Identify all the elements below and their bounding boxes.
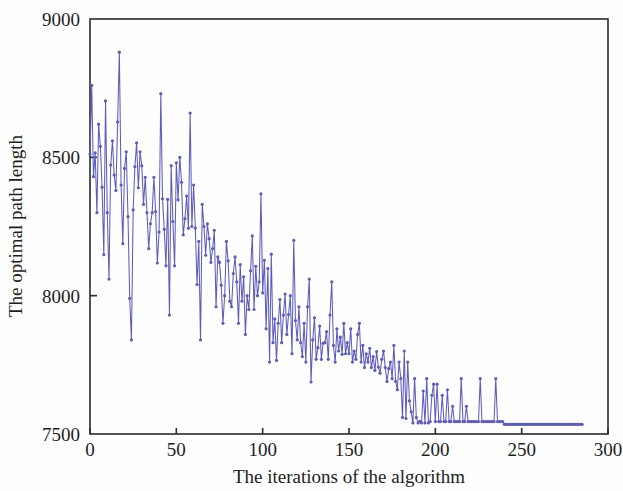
x-axis-title: The iterations of the algorithm bbox=[233, 466, 465, 487]
convergence-chart: 050100150200250300 7500800085009000 The … bbox=[0, 0, 623, 491]
x-tick-label-200: 200 bbox=[421, 439, 450, 460]
y-tick-label-8500: 8500 bbox=[42, 147, 80, 168]
chart-page: 050100150200250300 7500800085009000 The … bbox=[0, 0, 623, 491]
y-tick-label-8000: 8000 bbox=[42, 286, 80, 307]
x-tick-label-300: 300 bbox=[594, 439, 623, 460]
x-tick-label-150: 150 bbox=[335, 439, 364, 460]
y-axis-title: The optimal path length bbox=[5, 134, 26, 317]
y-tick-label-7500: 7500 bbox=[42, 424, 80, 445]
figure-background bbox=[0, 0, 623, 491]
x-tick-label-100: 100 bbox=[248, 439, 277, 460]
x-tick-label-0: 0 bbox=[85, 439, 95, 460]
y-tick-label-9000: 9000 bbox=[42, 9, 80, 30]
x-tick-label-50: 50 bbox=[167, 439, 186, 460]
x-tick-label-250: 250 bbox=[507, 439, 536, 460]
